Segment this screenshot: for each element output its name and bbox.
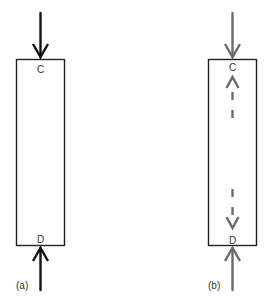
panel-a: C D (a) (16, 13, 65, 291)
label-c-a: C (37, 64, 44, 75)
caption-b: (b) (208, 280, 220, 291)
label-d-b: D (229, 235, 236, 246)
caption-a: (a) (16, 280, 28, 291)
bottom-arrow-b-icon (225, 248, 240, 290)
internal-dashed-arrow-up-icon (227, 77, 239, 118)
label-c-b: C (229, 62, 236, 73)
panel-b: C D (b) (208, 13, 257, 291)
column-box-a (17, 60, 65, 246)
internal-dashed-arrow-down-icon (227, 189, 239, 228)
column-box-b (209, 60, 257, 246)
diagram-canvas: C D (a) C D (b) (0, 0, 267, 300)
top-arrow-b-icon (225, 13, 240, 57)
label-d-a: D (37, 234, 44, 245)
top-arrow-a-icon (33, 13, 48, 57)
bottom-arrow-a-icon (33, 248, 48, 290)
